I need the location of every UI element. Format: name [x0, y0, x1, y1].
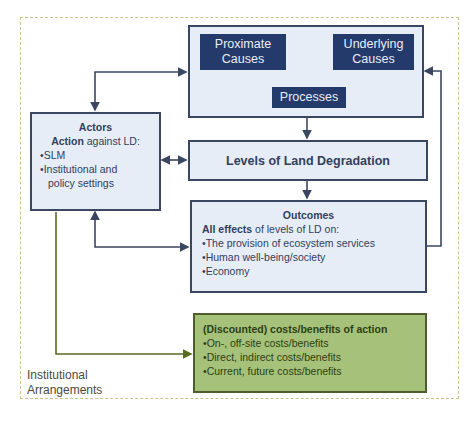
underlying-causes-line1: Underlying: [344, 37, 404, 52]
underlying-causes-box: Underlying Causes: [333, 34, 414, 70]
actors-item: Institutional and: [40, 162, 151, 176]
processes-label: Processes: [280, 90, 338, 105]
actors-list: SLM Institutional and: [40, 148, 151, 176]
costs-title: (Discounted) costs/benefits of action: [203, 322, 417, 336]
outcomes-list: The provision of ecosystem services Huma…: [202, 236, 415, 278]
actors-subtitle-bold: Action: [51, 135, 84, 147]
processes-box: Processes: [272, 87, 346, 108]
proximate-causes-line1: Proximate: [215, 37, 271, 52]
underlying-causes-line2: Causes: [344, 52, 404, 67]
costs-list: On-, off-site costs/benefits Direct, ind…: [203, 336, 417, 378]
proximate-causes-line2: Causes: [215, 52, 271, 67]
costs-benefits-box: (Discounted) costs/benefits of action On…: [193, 313, 427, 393]
outcomes-item: The provision of ecosystem services: [202, 236, 415, 250]
clipped-caption-strip: [22, 408, 452, 418]
actors-box: Actors Action against LD: SLM Institutio…: [30, 112, 161, 211]
actors-item-continued: policy settings: [40, 176, 151, 190]
outcomes-item: Human well-being/society: [202, 250, 415, 264]
outcomes-title: Outcomes: [202, 208, 415, 222]
costs-item: On-, off-site costs/benefits: [203, 336, 417, 350]
outcomes-item: Economy: [202, 264, 415, 278]
levels-box: Levels of Land Degradation: [188, 140, 428, 181]
outcomes-subtitle: All effects of levels of LD on:: [202, 222, 415, 236]
frame-label-line2: Arrangements: [27, 383, 147, 398]
frame-label-line1: Institutional: [27, 368, 147, 383]
actors-item: SLM: [40, 148, 151, 162]
outcomes-box: Outcomes All effects of levels of LD on:…: [190, 200, 427, 293]
costs-item: Current, future costs/benefits: [203, 364, 417, 378]
levels-title: Levels of Land Degradation: [226, 154, 390, 168]
institutional-arrangements-label: Institutional Arrangements: [27, 368, 147, 398]
actors-subtitle: Action against LD:: [40, 134, 151, 148]
costs-item: Direct, indirect costs/benefits: [203, 350, 417, 364]
proximate-causes-box: Proximate Causes: [200, 34, 286, 70]
actors-subtitle-rest: against LD:: [84, 135, 140, 147]
outcomes-subtitle-bold: All effects: [202, 223, 252, 235]
outcomes-subtitle-rest: of levels of LD on:: [252, 223, 339, 235]
actors-title: Actors: [40, 120, 151, 134]
